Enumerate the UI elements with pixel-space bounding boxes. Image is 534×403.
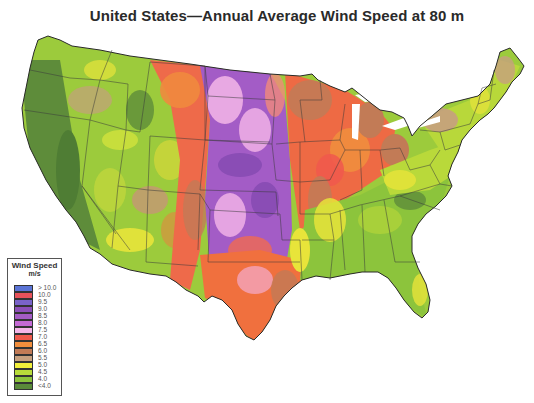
legend-item: 10.0 xyxy=(14,292,33,299)
legend-item: 9.5 xyxy=(14,299,33,306)
legend-title: Wind Speed xyxy=(8,261,61,270)
legend-swatch xyxy=(14,362,33,369)
legend-swatch xyxy=(14,348,33,355)
legend-swatch xyxy=(14,306,33,313)
legend-swatch xyxy=(14,313,33,320)
legend-item: 6.0 xyxy=(14,348,33,355)
legend-item: 9.0 xyxy=(14,306,33,313)
legend-swatch xyxy=(14,369,33,376)
legend-swatch xyxy=(14,334,33,341)
legend-item: 7.0 xyxy=(14,334,33,341)
legend-item: <4.0 xyxy=(14,383,33,390)
legend-unit: m/s xyxy=(8,270,61,278)
legend-rows: > 10.0 10.0 9.5 9.0 8.5 8.0 7.5 7.0 6.5 … xyxy=(14,285,33,390)
legend-swatch xyxy=(14,292,33,299)
legend-item: > 10.0 xyxy=(14,285,33,292)
legend: Wind Speed m/s > 10.0 10.0 9.5 9.0 8.5 8… xyxy=(7,258,62,396)
legend-swatch xyxy=(14,299,33,306)
legend-item: 4.0 xyxy=(14,376,33,383)
legend-item: 8.0 xyxy=(14,320,33,327)
legend-swatch xyxy=(14,355,33,362)
us-wind-map xyxy=(0,0,534,403)
legend-swatch xyxy=(14,383,33,390)
legend-item: 5.5 xyxy=(14,355,33,362)
legend-swatch xyxy=(14,376,33,383)
legend-swatch xyxy=(14,327,33,334)
legend-swatch xyxy=(14,320,33,327)
legend-swatch xyxy=(14,285,33,292)
legend-swatch xyxy=(14,341,33,348)
legend-item: 5.0 xyxy=(14,362,33,369)
legend-item: 8.5 xyxy=(14,313,33,320)
legend-item: 6.5 xyxy=(14,341,33,348)
legend-item: 7.5 xyxy=(14,327,33,334)
legend-item: 4.5 xyxy=(14,369,33,376)
